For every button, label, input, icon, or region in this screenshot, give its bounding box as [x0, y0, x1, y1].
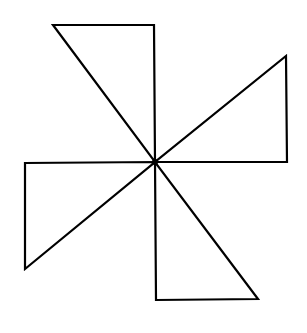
right-triangle [155, 56, 287, 162]
bottom-triangle [155, 162, 258, 300]
top-triangle [53, 25, 155, 162]
pinwheel-diagram [0, 0, 307, 333]
center-point [152, 159, 158, 165]
left-triangle [25, 162, 155, 269]
